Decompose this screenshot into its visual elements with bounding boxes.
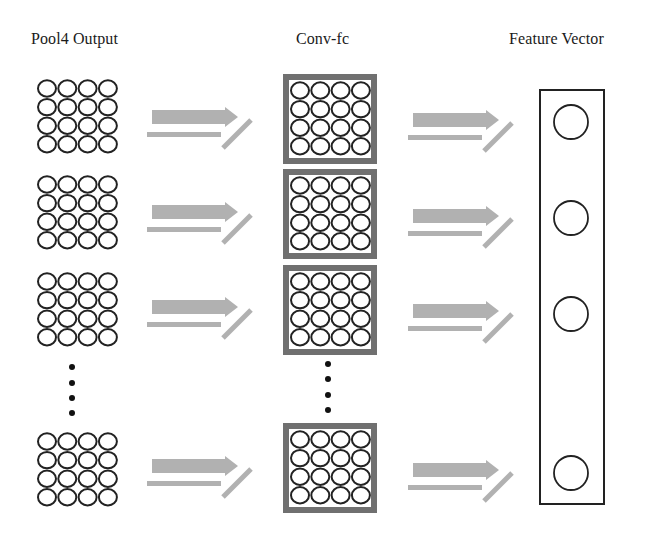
- neuron-circle: [99, 471, 117, 487]
- neuron-circle: [38, 273, 56, 289]
- neuron-circle: [38, 136, 56, 152]
- arrow-lower-bar: [408, 485, 482, 490]
- arrow-icon-right-1: [408, 110, 512, 151]
- neuron-circle: [58, 118, 76, 134]
- arrow-icon-left-3: [147, 297, 251, 338]
- ellipsis-dot: [325, 392, 331, 398]
- neuron-circle: [38, 452, 56, 468]
- arrow-icon: [413, 110, 499, 130]
- neuron-circle: [58, 176, 76, 192]
- neuron-circle: [38, 80, 56, 96]
- neuron-circle: [79, 195, 97, 211]
- arrow-lower-bar: [147, 132, 221, 137]
- conv-fc-box-1: [286, 77, 374, 161]
- conv-fc-box-3: [286, 268, 374, 352]
- ellipsis-dot: [69, 395, 75, 401]
- neuron-circle: [79, 273, 97, 289]
- neuron-circle: [79, 489, 97, 505]
- ellipsis-dot: [325, 407, 331, 413]
- arrow-icon: [152, 202, 238, 222]
- arrow-lower-bar: [408, 231, 482, 236]
- neuron-circle: [99, 80, 117, 96]
- neuron-circle: [99, 433, 117, 449]
- feature-node-3: [554, 297, 588, 331]
- neuron-circle: [79, 232, 97, 248]
- pool4-grid-2: [38, 176, 117, 248]
- arrow-icon-right-2: [408, 206, 512, 247]
- neuron-circle: [38, 195, 56, 211]
- neuron-circle: [58, 136, 76, 152]
- neuron-circle: [79, 292, 97, 308]
- conv-fc-ellipsis: [325, 361, 331, 413]
- pool4-ellipsis: [69, 364, 75, 416]
- neuron-circle: [38, 292, 56, 308]
- arrow-icon: [152, 107, 238, 127]
- neuron-circle: [79, 176, 97, 192]
- feature-node-4: [554, 456, 588, 490]
- arrow-icon: [152, 297, 238, 317]
- neuron-circle: [79, 99, 97, 115]
- pool4-output-column: [38, 80, 117, 505]
- neuron-circle: [58, 214, 76, 230]
- neuron-circle: [99, 311, 117, 327]
- pool4-grid-1: [38, 80, 117, 152]
- neuron-circle: [99, 452, 117, 468]
- arrow-lower-bar: [408, 135, 482, 140]
- neuron-circle: [58, 433, 76, 449]
- neuron-circle: [79, 452, 97, 468]
- conv-fc-box-4: [286, 426, 374, 510]
- conv-fc-box-2: [286, 172, 374, 256]
- neuron-circle: [79, 433, 97, 449]
- neuron-circle: [58, 311, 76, 327]
- neuron-circle: [38, 329, 56, 345]
- neuron-circle: [38, 99, 56, 115]
- neuron-circle: [99, 232, 117, 248]
- neuron-circle: [79, 118, 97, 134]
- neuron-circle: [58, 471, 76, 487]
- arrow-lower-bar: [408, 326, 482, 331]
- arrow-icon-right-3: [408, 301, 512, 342]
- arrow-lower-bar: [147, 481, 221, 486]
- neuron-circle: [79, 311, 97, 327]
- neuron-circle: [38, 118, 56, 134]
- conv-to-feature-arrows: [408, 110, 512, 501]
- ellipsis-dot: [325, 361, 331, 367]
- arrow-icon-left-2: [147, 202, 251, 243]
- arrow-icon-left-4: [147, 456, 251, 497]
- neuron-circle: [79, 214, 97, 230]
- neuron-circle: [99, 99, 117, 115]
- neuron-circle: [99, 273, 117, 289]
- neuron-circle: [58, 195, 76, 211]
- ellipsis-dot: [69, 364, 75, 370]
- arrow-icon: [413, 206, 499, 226]
- pool4-grid-3: [38, 273, 117, 345]
- diagram-canvas: [0, 0, 651, 539]
- neuron-circle: [99, 329, 117, 345]
- neuron-circle: [99, 176, 117, 192]
- ellipsis-dot: [325, 376, 331, 382]
- neuron-circle: [79, 80, 97, 96]
- ellipsis-dot: [69, 380, 75, 386]
- neuron-circle: [99, 214, 117, 230]
- neuron-circle: [38, 489, 56, 505]
- neuron-circle: [38, 176, 56, 192]
- arrow-icon: [152, 456, 238, 476]
- neuron-circle: [38, 433, 56, 449]
- neuron-circle: [58, 329, 76, 345]
- neuron-circle: [38, 214, 56, 230]
- neuron-circle: [99, 292, 117, 308]
- feature-vector-column: [540, 90, 604, 504]
- neuron-circle: [99, 489, 117, 505]
- feature-node-2: [554, 201, 588, 235]
- arrow-icon: [413, 460, 499, 480]
- neuron-circle: [38, 471, 56, 487]
- arrow-icon-left-1: [147, 107, 251, 148]
- neuron-circle: [38, 232, 56, 248]
- pool4-to-conv-arrows: [147, 107, 251, 497]
- neuron-circle: [79, 471, 97, 487]
- arrow-icon-right-4: [408, 460, 512, 501]
- neuron-circle: [79, 329, 97, 345]
- neuron-circle: [99, 118, 117, 134]
- neuron-circle: [99, 195, 117, 211]
- neuron-circle: [58, 232, 76, 248]
